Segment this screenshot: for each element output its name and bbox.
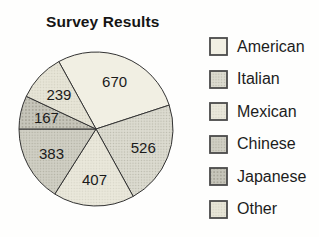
- pie-chart: 670526407383167239: [14, 47, 178, 211]
- legend-label-other: Other: [237, 201, 277, 217]
- legend-swatch-other: [209, 200, 228, 219]
- pie-value-label-japanese: 167: [34, 109, 59, 126]
- pie-value-label-italian: 526: [131, 139, 156, 156]
- legend: AmericanItalianMexicanChineseJapaneseOth…: [209, 37, 306, 219]
- pie-value-label-other: 239: [46, 86, 71, 103]
- legend-label-mexican: Mexican: [237, 104, 297, 120]
- legend-swatch-chinese: [209, 135, 228, 154]
- legend-label-chinese: Chinese: [237, 136, 296, 152]
- legend-item-italian: Italian: [209, 70, 306, 89]
- chart-title: Survey Results: [46, 13, 159, 31]
- pie-chart-svg: 670526407383167239: [14, 47, 178, 211]
- legend-swatch-american: [209, 37, 228, 56]
- legend-label-japanese: Japanese: [237, 169, 306, 185]
- legend-item-chinese: Chinese: [209, 135, 306, 154]
- pie-value-label-mexican: 407: [82, 171, 107, 188]
- legend-item-japanese: Japanese: [209, 167, 306, 186]
- legend-item-other: Other: [209, 200, 306, 219]
- legend-swatch-italian: [209, 70, 228, 89]
- legend-label-italian: Italian: [237, 71, 280, 87]
- legend-swatch-japanese: [209, 167, 228, 186]
- legend-label-american: American: [237, 39, 305, 55]
- pie-value-label-chinese: 383: [39, 145, 64, 162]
- legend-swatch-mexican: [209, 102, 228, 121]
- legend-item-mexican: Mexican: [209, 102, 306, 121]
- pie-value-label-american: 670: [102, 73, 127, 90]
- legend-item-american: American: [209, 37, 306, 56]
